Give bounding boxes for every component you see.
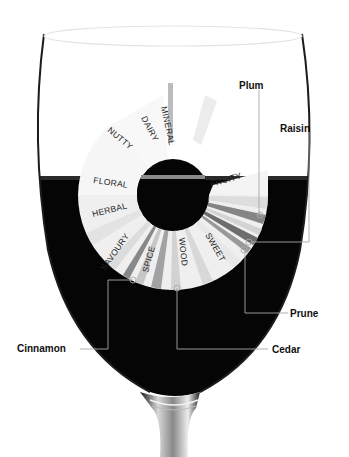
callout-cinnamon: Cinnamon xyxy=(17,343,66,354)
callout-cedar: Cedar xyxy=(272,344,300,355)
callout-prune: Prune xyxy=(290,308,318,319)
callout-plum: Plum xyxy=(239,80,263,91)
glass-rim xyxy=(44,26,302,46)
callout-raisin: Raisin xyxy=(280,123,310,134)
wine-glass-illustration: MINERAL DAIRY NUTTY FLORAL FRUITY HERBAL… xyxy=(0,0,349,457)
glass-stem xyxy=(140,392,200,457)
aroma-wheel: MINERAL DAIRY NUTTY FLORAL FRUITY HERBAL… xyxy=(78,83,268,290)
